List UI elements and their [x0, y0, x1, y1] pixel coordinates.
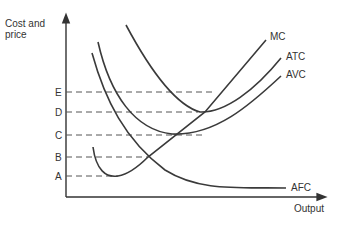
afc-label: AFC	[291, 182, 311, 193]
mc-curve	[93, 40, 266, 176]
x-axis-label: Output	[294, 203, 324, 214]
afc-curve	[92, 53, 286, 188]
mc-label: MC	[270, 31, 286, 42]
level-d-label: D	[55, 107, 62, 118]
y-axis-label-line2: price	[5, 29, 27, 40]
avc-label: AVC	[286, 69, 306, 80]
level-c-label: C	[55, 130, 62, 141]
cost-curves	[92, 25, 286, 188]
atc-curve	[126, 25, 281, 112]
atc-label: ATC	[286, 51, 305, 62]
level-b-label: B	[55, 152, 62, 163]
level-e-label: E	[55, 87, 62, 98]
y-axis-label-line1: Cost and	[5, 18, 45, 29]
level-a-label: A	[55, 171, 62, 182]
price-level-lines	[66, 92, 212, 176]
